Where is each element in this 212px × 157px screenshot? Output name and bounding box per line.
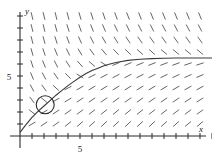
- slope-field-segment: [197, 98, 203, 102]
- slope-field-segment: [114, 49, 119, 54]
- slope-field-segment: [125, 50, 130, 55]
- slope-field-segment: [173, 63, 180, 65]
- figure-canvas: y x 5 5: [0, 0, 212, 157]
- slope-field-segment: [67, 13, 69, 20]
- slope-field-segment: [198, 25, 201, 31]
- slope-field-segment: [149, 122, 154, 127]
- slope-field-segment: [31, 49, 33, 56]
- slope-field-segment: [185, 86, 191, 89]
- slope-field-segment: [77, 122, 82, 127]
- slope-field-segment: [31, 73, 34, 79]
- slope-field-segment: [137, 86, 143, 90]
- slope-field-segment: [42, 85, 46, 91]
- slope-field-segment: [137, 74, 143, 77]
- slope-field-segment: [113, 74, 119, 77]
- slope-field-segment: [149, 50, 154, 55]
- slope-field-segment: [185, 75, 191, 78]
- x-tick-label-5: 5: [78, 144, 83, 154]
- slope-field-segment: [31, 25, 33, 32]
- slope-field-segment: [54, 61, 57, 67]
- slope-field-segment: [199, 13, 202, 20]
- slope-field-segment: [91, 25, 94, 32]
- slope-field-segment: [161, 110, 167, 114]
- slope-field-segment: [43, 13, 45, 20]
- slope-field-segment: [101, 74, 107, 77]
- slope-field-segment: [186, 37, 190, 43]
- slope-field-segment: [173, 86, 179, 89]
- slope-field-segment: [77, 98, 83, 102]
- slope-field-segment: [197, 50, 202, 54]
- x-axis-label: x: [198, 124, 203, 134]
- slope-field-segment: [101, 86, 107, 90]
- slope-field-segment: [66, 61, 70, 67]
- slope-field-segment: [125, 74, 131, 77]
- slope-field-segment: [174, 25, 177, 31]
- slope-field-segment: [103, 25, 106, 31]
- slope-field-segment: [31, 61, 33, 68]
- slope-field-figure: y x 5 5: [0, 0, 212, 157]
- slope-field-segment: [149, 110, 154, 114]
- slope-field-segment: [101, 110, 106, 114]
- slope-field-segment: [185, 122, 190, 127]
- slope-field-segment: [55, 25, 57, 32]
- slope-field-segment: [30, 97, 34, 103]
- slope-field-segment: [77, 110, 83, 114]
- slope-field-segment: [53, 86, 58, 91]
- slope-field-segment: [197, 86, 203, 89]
- slope-field-segment: [41, 98, 46, 102]
- slope-field-segment: [30, 85, 33, 91]
- slope-field-segment: [67, 25, 69, 32]
- slope-field-segment: [113, 110, 118, 114]
- slope-field-group: [29, 13, 203, 127]
- slope-field-segment: [79, 37, 82, 43]
- slope-field-segment: [43, 61, 46, 68]
- slope-field-segment: [43, 37, 45, 44]
- slope-field-segment: [125, 122, 130, 127]
- slope-field-segment: [150, 25, 153, 31]
- slope-field-segment: [102, 37, 106, 43]
- slope-field-segment: [89, 110, 95, 114]
- slope-field-segment: [65, 98, 71, 102]
- slope-field-segment: [125, 86, 131, 90]
- slope-field-segment: [125, 63, 131, 66]
- slope-field-segment: [79, 13, 81, 20]
- slope-field-segment: [89, 74, 95, 77]
- slope-field-segment: [163, 13, 166, 20]
- slope-field-segment: [78, 49, 82, 55]
- slope-field-segment: [137, 50, 142, 55]
- slope-field-segment: [137, 63, 143, 66]
- slope-field-segment: [125, 110, 130, 114]
- slope-field-segment: [91, 13, 93, 20]
- slope-field-segment: [101, 98, 107, 102]
- slope-field-segment: [139, 13, 142, 20]
- slope-field-segment: [66, 74, 71, 79]
- slope-field-segment: [149, 74, 155, 77]
- slope-field-segment: [174, 37, 178, 43]
- slope-field-segment: [113, 122, 118, 127]
- slope-field-segment: [31, 37, 33, 44]
- slope-field-segment: [103, 13, 105, 20]
- slope-field-segment: [113, 86, 119, 90]
- slope-field-segment: [173, 50, 178, 54]
- slope-field-segment: [186, 25, 189, 31]
- slope-field-segment: [173, 110, 179, 114]
- slope-field-segment: [43, 49, 45, 56]
- slope-field-segment: [161, 74, 167, 77]
- slope-field-segment: [113, 98, 119, 102]
- y-axis-label: y: [24, 6, 29, 16]
- slope-field-segment: [137, 98, 143, 102]
- slope-field-segment: [138, 25, 141, 31]
- slope-field-segment: [53, 110, 59, 114]
- slope-field-segment: [138, 37, 142, 43]
- slope-field-segment: [161, 63, 168, 66]
- axis-ticks-group: [17, 16, 212, 139]
- slope-field-segment: [31, 13, 33, 20]
- slope-field-segment: [66, 49, 69, 55]
- slope-field-segment: [173, 98, 179, 102]
- slope-field-segment: [173, 122, 178, 127]
- slope-field-segment: [101, 122, 106, 127]
- axes-group: [10, 12, 206, 148]
- slope-field-segment: [89, 122, 94, 127]
- y-tick-label-5: 5: [7, 72, 12, 82]
- slope-field-segment: [161, 50, 166, 54]
